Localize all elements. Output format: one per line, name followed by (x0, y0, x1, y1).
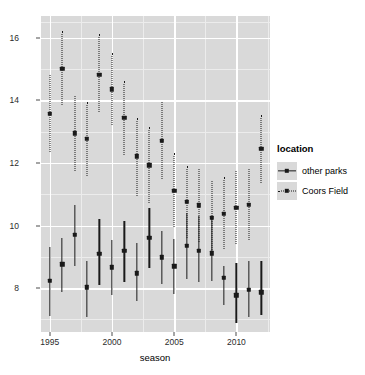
data-point (135, 154, 139, 158)
legend-items: other parksCoors Field (277, 161, 363, 201)
x-tick-mark (236, 332, 237, 336)
data-point (197, 203, 201, 207)
error-bar (223, 266, 224, 305)
x-tick-label: 2000 (102, 337, 121, 347)
legend-item[interactable]: Coors Field (277, 181, 363, 201)
data-point (209, 251, 213, 255)
data-point (172, 188, 176, 192)
data-point (147, 163, 151, 167)
legend-key-point (285, 189, 289, 193)
legend-label: Coors Field (302, 186, 348, 196)
data-point (172, 264, 176, 268)
y-tick-label: 16 (10, 33, 19, 43)
data-point (48, 279, 52, 283)
data-point (160, 255, 164, 259)
x-tick-label: 1995 (40, 337, 59, 347)
error-bar (211, 217, 212, 281)
data-point (60, 262, 64, 266)
y-tick-label: 14 (10, 95, 19, 105)
gridline-minor-vertical (268, 16, 269, 332)
y-tick-label: 8 (14, 283, 19, 293)
y-tick-mark (36, 288, 40, 289)
data-point (160, 139, 164, 143)
data-point (234, 206, 238, 210)
data-point (184, 200, 188, 204)
legend-key-point (285, 169, 289, 173)
legend: location other parksCoors Field (277, 143, 363, 201)
line-point-solid-icon (277, 162, 297, 180)
data-point (110, 87, 114, 91)
data-point (222, 212, 226, 216)
data-point (135, 271, 139, 275)
data-point (97, 73, 101, 77)
data-point (72, 233, 76, 237)
data-point (48, 111, 52, 115)
y-tick-mark (36, 225, 40, 226)
gridline-minor-vertical (81, 16, 82, 332)
x-tick-label: 2010 (227, 337, 246, 347)
plot-panel (41, 16, 270, 332)
data-point (72, 131, 76, 135)
error-bar (261, 261, 262, 315)
data-point (110, 265, 114, 269)
error-bar (86, 261, 87, 317)
data-point (60, 66, 64, 70)
x-tick-mark (174, 332, 175, 336)
legend-label: other parks (302, 166, 347, 176)
x-tick-label: 2005 (165, 337, 184, 347)
y-tick-label: 10 (10, 221, 19, 231)
data-point (247, 288, 251, 292)
gridline-minor-vertical (143, 16, 144, 332)
data-point (234, 293, 238, 297)
data-point (97, 252, 101, 256)
gridline-minor-vertical (205, 16, 206, 332)
data-point (259, 290, 263, 294)
data-point (147, 235, 151, 239)
x-tick-mark (49, 332, 50, 336)
y-tick-mark (36, 37, 40, 38)
chart-root: runs per game (both teams combined) seas… (0, 0, 365, 375)
legend-item[interactable]: other parks (277, 161, 363, 181)
y-tick-label: 12 (10, 158, 19, 168)
data-point (184, 243, 188, 247)
line-point-dotted-icon (277, 182, 297, 200)
x-tick-mark (111, 332, 112, 336)
data-point (122, 249, 126, 253)
data-point (85, 137, 89, 141)
data-point (222, 275, 226, 279)
data-point (247, 202, 251, 206)
data-point (259, 147, 263, 151)
x-axis-title: season (40, 352, 270, 363)
legend-title: location (277, 143, 363, 154)
data-point (197, 249, 201, 253)
data-point (85, 285, 89, 289)
y-tick-mark (36, 163, 40, 164)
data-point (122, 115, 126, 119)
y-tick-mark (36, 100, 40, 101)
